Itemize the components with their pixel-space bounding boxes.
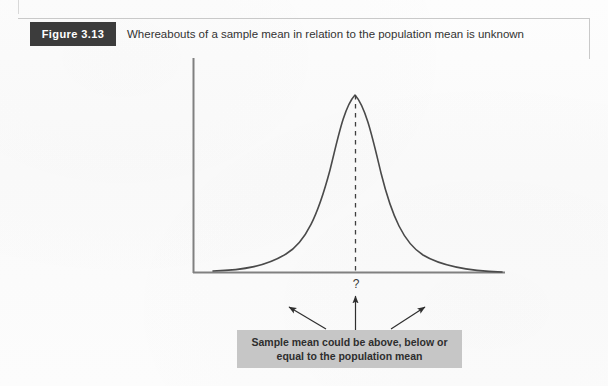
question-mark-label: ? [348,277,364,291]
callout-line-1: Sample mean could be above, below or [251,335,447,349]
callout-box: Sample mean could be above, below or equ… [237,330,462,368]
arrow-left [289,307,326,329]
normal-distribution-chart [0,0,608,386]
arrow-right [391,307,425,329]
bell-curve [213,95,502,272]
callout-line-2: equal to the population mean [277,349,423,363]
